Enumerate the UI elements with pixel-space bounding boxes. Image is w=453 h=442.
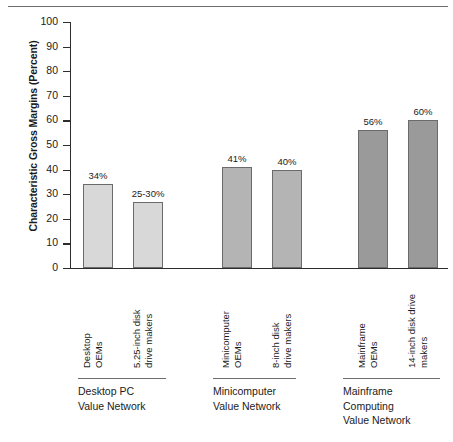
group-label-line: Value Network	[343, 413, 411, 428]
category-label-line: 14-inch disk drive	[406, 294, 418, 368]
y-tick-label: 10	[24, 236, 58, 248]
group-label: Desktop PCValue Network	[78, 384, 146, 413]
y-tick-mark	[63, 145, 70, 146]
bar	[222, 167, 252, 268]
y-tick-mark	[63, 120, 70, 121]
y-tick-label: 0	[24, 261, 58, 273]
y-tick-mark	[63, 194, 70, 195]
bar	[83, 184, 113, 268]
y-tick-label: 100	[24, 15, 58, 27]
group-label-line: Value Network	[78, 399, 146, 414]
bar	[272, 170, 302, 268]
category-label-line: OEMs	[368, 323, 380, 368]
y-axis-line	[70, 22, 71, 269]
y-tick-label: 80	[24, 64, 58, 76]
y-tick-mark	[63, 96, 70, 97]
category-label-line: Desktop	[81, 333, 93, 368]
category-label-line: Minicomputer	[220, 311, 232, 368]
group-label-line: Mainframe	[343, 384, 411, 399]
y-tick-label: 20	[24, 212, 58, 224]
y-tick-mark	[63, 243, 70, 244]
category-label-line: OEMs	[232, 311, 244, 368]
bar-value-label: 34%	[88, 170, 107, 181]
bar-value-label: 40%	[277, 156, 296, 167]
group-rule	[213, 378, 296, 379]
category-label-line: Mainframe	[356, 323, 368, 368]
bar-chart-figure: Characteristic Gross Margins (Percent) 1…	[0, 0, 453, 442]
category-label-line: drive makers	[143, 309, 155, 368]
y-tick-label: 30	[24, 187, 58, 199]
group-label-line: Computing	[343, 399, 411, 414]
bar	[408, 120, 438, 268]
y-tick-mark	[63, 268, 70, 269]
y-tick-label: 90	[24, 40, 58, 52]
category-label: MinicomputerOEMs	[220, 311, 243, 368]
group-label-line: Minicomputer	[213, 384, 281, 399]
bar-value-label: 41%	[227, 153, 246, 164]
group-label-line: Value Network	[213, 399, 281, 414]
category-label-line: 5.25-inch disk	[131, 309, 143, 368]
category-label: DesktopOEMs	[81, 333, 104, 368]
y-tick-mark	[63, 71, 70, 72]
group-label: MinicomputerValue Network	[213, 384, 281, 413]
group-rule	[78, 378, 166, 379]
y-tick-label: 50	[24, 138, 58, 150]
y-tick-mark	[63, 219, 70, 220]
group-rule	[343, 378, 440, 379]
category-label: MainframeOEMs	[356, 323, 379, 368]
y-tick-label: 40	[24, 163, 58, 175]
y-tick-mark	[63, 22, 70, 23]
top-divider-rule	[8, 6, 448, 7]
y-tick-label: 60	[24, 113, 58, 125]
bar	[133, 202, 163, 268]
y-tick-mark	[63, 47, 70, 48]
category-label: 14-inch disk drivemakers	[406, 294, 429, 368]
category-label-line: makers	[418, 294, 430, 368]
group-label: MainframeComputingValue Network	[343, 384, 411, 428]
bar-value-label: 25-30%	[132, 188, 165, 199]
bar-value-label: 56%	[363, 116, 382, 127]
category-label-line: OEMs	[93, 333, 105, 368]
category-label: 8-inch diskdrive makers	[270, 314, 293, 368]
x-axis-line	[70, 268, 448, 269]
category-label-line: 8-inch disk	[270, 314, 282, 368]
category-label-line: drive makers	[282, 314, 294, 368]
y-tick-mark	[63, 170, 70, 171]
category-label: 5.25-inch diskdrive makers	[131, 309, 154, 368]
y-tick-label: 70	[24, 89, 58, 101]
bar-value-label: 60%	[413, 106, 432, 117]
bar	[358, 130, 388, 268]
group-label-line: Desktop PC	[78, 384, 146, 399]
